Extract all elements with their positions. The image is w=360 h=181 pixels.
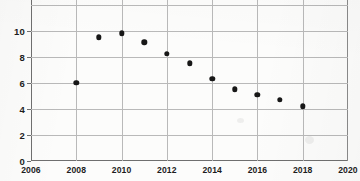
gridline-vertical <box>167 0 168 161</box>
gridline-horizontal <box>31 31 348 32</box>
y-axis-tick-label: 6 <box>20 77 25 88</box>
axis-tick-mark <box>27 109 31 110</box>
gridline-horizontal <box>31 5 348 6</box>
y-axis-line <box>31 0 32 161</box>
axis-tick-mark <box>27 83 31 84</box>
data-point <box>142 40 147 45</box>
data-point <box>277 97 282 102</box>
data-point <box>74 80 79 85</box>
gridline-vertical <box>303 0 304 161</box>
gridline-horizontal <box>31 57 348 58</box>
plot-area: 0246810 20062008201020122014201620182020 <box>31 0 348 161</box>
data-point <box>255 92 260 97</box>
gridline-horizontal <box>31 109 348 110</box>
x-axis-tick-label: 2020 <box>338 165 358 175</box>
x-axis-tick-label: 2010 <box>112 165 132 175</box>
x-axis-tick-label: 2008 <box>67 165 87 175</box>
x-axis-tick-label: 2006 <box>21 165 41 175</box>
data-point <box>209 76 214 81</box>
scatter-chart: 0246810 20062008201020122014201620182020 <box>0 0 360 181</box>
y-axis-tick-label: 4 <box>20 103 25 114</box>
plot-right-border <box>347 0 348 161</box>
data-point <box>96 34 101 39</box>
y-axis-tick-label: 10 <box>14 25 25 36</box>
x-axis-tick-label: 2012 <box>157 165 177 175</box>
axis-tick-mark <box>27 135 31 136</box>
data-point <box>119 31 124 36</box>
y-axis-tick-label: 2 <box>20 129 25 140</box>
y-axis-tick-label: 8 <box>20 51 25 62</box>
x-axis-line <box>31 160 348 161</box>
axis-tick-mark <box>27 31 31 32</box>
x-axis-tick-label: 2016 <box>248 165 268 175</box>
gridline-vertical <box>257 0 258 161</box>
data-point <box>187 61 192 66</box>
axis-tick-mark <box>27 57 31 58</box>
gridline-vertical <box>122 0 123 161</box>
axis-tick-mark <box>27 161 31 162</box>
gridline-horizontal <box>31 135 348 136</box>
data-point <box>232 87 237 92</box>
x-axis-tick-label: 2018 <box>293 165 313 175</box>
x-axis-tick-label: 2014 <box>202 165 222 175</box>
